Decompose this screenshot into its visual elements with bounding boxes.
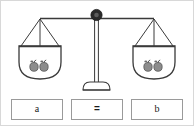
equation-row: a = b <box>0 96 194 122</box>
right-pan <box>133 46 175 79</box>
operator-box[interactable]: = <box>71 99 123 120</box>
center-post <box>95 17 99 82</box>
left-term-box[interactable]: a <box>11 99 63 120</box>
left-pan <box>19 46 61 79</box>
scale-base <box>83 82 110 90</box>
right-term-box[interactable]: b <box>131 99 183 120</box>
figure-canvas: a = b <box>0 0 194 126</box>
fulcrum-knob <box>91 9 102 20</box>
right-hanger-strings <box>135 19 173 46</box>
left-hanger-strings <box>21 19 59 46</box>
